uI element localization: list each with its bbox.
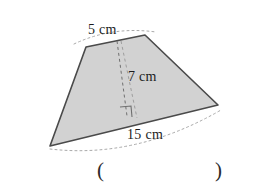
- answer-open-paren: (: [97, 158, 104, 183]
- height-label: 7 cm: [128, 69, 157, 85]
- answer-blank[interactable]: ( ): [0, 158, 257, 190]
- bottom-side-label: 15 cm: [127, 127, 163, 143]
- answer-close-paren: ): [215, 158, 222, 183]
- geometry-figure: 5 cm 7 cm 15 cm ( ): [0, 0, 257, 193]
- top-side-label: 5 cm: [88, 22, 117, 38]
